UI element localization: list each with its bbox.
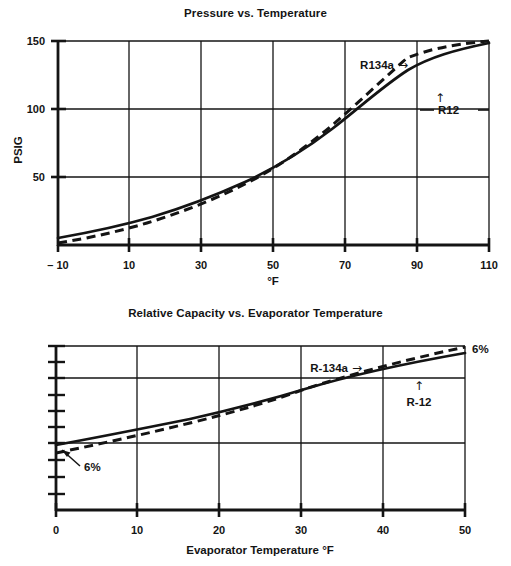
x-tick-minus10: – 10	[47, 259, 68, 271]
annotation-r12: ↑ R12	[420, 91, 489, 116]
x-tick-0: 0	[53, 524, 59, 536]
y-tick-100: 100	[27, 103, 45, 115]
x-tick-50: 50	[459, 524, 471, 536]
capacity-x-axis-title: Evaporator Temperature °F	[186, 544, 334, 556]
annotation-left-6-percent-label: 6%	[84, 461, 101, 473]
x-tick-10: 10	[131, 524, 143, 536]
pressure-y-tick-labels: 150 100 50	[27, 35, 45, 183]
x-tick-30: 30	[195, 259, 207, 271]
annotation-r12-capacity-label: R-12	[407, 396, 432, 408]
curve-r12-capacity	[56, 353, 465, 445]
annotation-r12-label: R12	[438, 104, 459, 116]
curve-r134a-capacity	[56, 347, 465, 453]
y-tick-150: 150	[27, 35, 45, 47]
x-tick-70: 70	[339, 259, 351, 271]
annotation-r12-capacity: ↑ R-12	[407, 379, 432, 408]
arrow-up-icon-capacity: ↑	[414, 379, 424, 393]
pressure-gridlines	[57, 41, 489, 245]
x-tick-20: 20	[213, 524, 225, 536]
capacity-gridlines	[55, 346, 465, 510]
pressure-chart-svg: R134a → ↑ R12 150 100 50 – 10 10 30 50 7…	[0, 0, 511, 290]
annotation-r134a-capacity: R-134a →	[310, 361, 362, 375]
x-tick-90: 90	[411, 259, 423, 271]
arrow-up-icon: ↑	[435, 91, 445, 105]
annotation-r134a-label: R134a	[360, 59, 394, 71]
annotation-r134a-capacity-label: R-134a	[310, 362, 348, 374]
pressure-x-tick-labels: – 10 10 30 50 70 90 110	[47, 259, 498, 271]
x-tick-40: 40	[377, 524, 389, 536]
chart-relative-capacity-vs-evaporator-temperature: Relative Capacity vs. Evaporator Tempera…	[0, 290, 511, 566]
x-tick-50: 50	[267, 259, 279, 271]
capacity-axes	[48, 345, 466, 517]
y-tick-50: 50	[33, 171, 45, 183]
chart-pressure-vs-temperature: Pressure vs. Temperature	[0, 0, 511, 290]
x-tick-110: 110	[480, 259, 498, 271]
capacity-chart-svg: 6% 6% R-134a → ↑ R-12 0 10 20 30 40 50 E…	[0, 290, 511, 566]
annotation-right-6-percent: 6%	[472, 343, 489, 355]
x-tick-10: 10	[123, 259, 135, 271]
annotation-left-6-percent: 6%	[62, 450, 101, 473]
pressure-x-axis-title: °F	[267, 275, 279, 287]
annotation-r134a: R134a →	[360, 58, 408, 72]
annotation-right-6-percent-label: 6%	[472, 343, 489, 355]
arrow-right-icon: →	[398, 58, 408, 72]
arrow-right-icon-capacity: →	[352, 361, 362, 375]
pressure-y-axis-title: PSIG	[12, 136, 24, 164]
pressure-axes	[51, 40, 490, 252]
capacity-x-tick-labels: 0 10 20 30 40 50	[53, 524, 471, 536]
x-tick-30: 30	[295, 524, 307, 536]
